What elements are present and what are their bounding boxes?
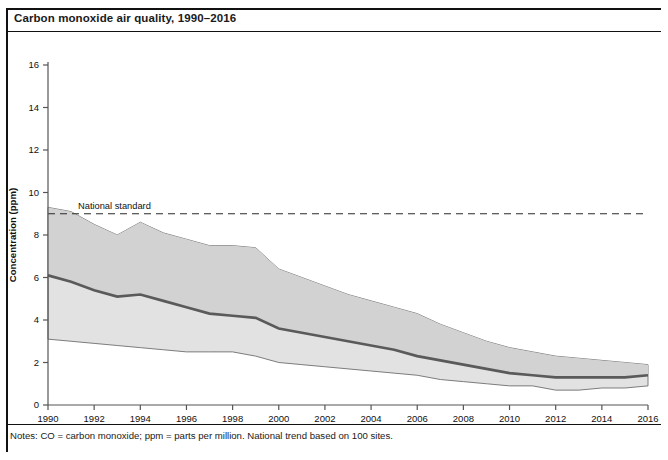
page-title: Carbon monoxide air quality, 1990–2016 [14,12,236,24]
svg-text:4: 4 [34,314,39,325]
svg-text:14: 14 [28,102,39,113]
frame-top-rule [6,8,661,10]
svg-text:8: 8 [34,229,39,240]
svg-text:0: 0 [34,399,39,410]
svg-text:10: 10 [28,187,39,198]
svg-text:12: 12 [28,144,39,155]
title-divider [6,31,661,32]
co-air-quality-chart: 0246810121416199019921994199619982000200… [0,36,668,426]
svg-text:1998: 1998 [222,413,243,424]
svg-text:2: 2 [34,357,39,368]
svg-text:16: 16 [28,59,39,70]
figure-notes: Notes: CO = carbon monoxide; ppm = parts… [10,430,393,441]
svg-text:1992: 1992 [84,413,105,424]
svg-text:2012: 2012 [545,413,566,424]
svg-text:2002: 2002 [314,413,335,424]
svg-text:2004: 2004 [361,413,382,424]
svg-text:2010: 2010 [499,413,520,424]
svg-text:6: 6 [34,272,39,283]
svg-text:1996: 1996 [176,413,197,424]
figure-panel: Carbon monoxide air quality, 1990–2016 0… [0,0,668,460]
svg-text:2006: 2006 [407,413,428,424]
svg-text:2000: 2000 [268,413,289,424]
svg-text:Concentration (ppm): Concentration (ppm) [7,188,18,282]
svg-text:2014: 2014 [591,413,612,424]
svg-text:National standard: National standard [78,201,151,211]
svg-text:2008: 2008 [453,413,474,424]
svg-text:1994: 1994 [130,413,151,424]
notes-divider [6,424,661,425]
chart-container: 0246810121416199019921994199619982000200… [0,36,668,426]
svg-text:1990: 1990 [37,413,58,424]
svg-text:2016: 2016 [637,413,658,424]
